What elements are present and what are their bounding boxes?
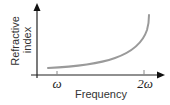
- y-axis-label-line1: Refractive: [9, 16, 21, 66]
- refractive-index-diagram: ω 2ω Frequency Refractive index: [0, 0, 170, 105]
- y-axis-label-line2: index: [21, 26, 33, 53]
- y-axis-arrow-icon: [34, 3, 41, 11]
- x-tick-label-omega: ω: [52, 76, 61, 91]
- x-tick-label-2omega: 2ω: [137, 76, 153, 91]
- x-axis-label: Frequency: [75, 88, 127, 100]
- x-axis-arrow-icon: [157, 72, 165, 79]
- refractive-index-curve: [48, 15, 149, 68]
